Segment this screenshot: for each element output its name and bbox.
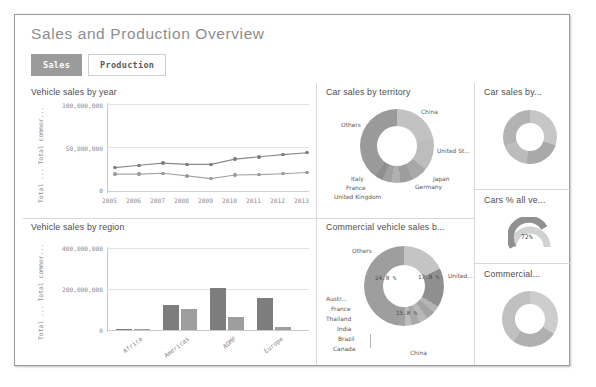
data-point <box>185 174 188 177</box>
slice-label-others: Others <box>352 248 372 254</box>
slice-pct-united-states: 17.8 % <box>418 274 439 280</box>
slice-label-france: France <box>331 306 351 312</box>
panel-commercial-vehicle-sales[interactable]: Commercial vehicle sales b... 17.8 % 15.… <box>320 222 474 365</box>
row-divider-right-2 <box>474 263 571 264</box>
panel-car-sales-by-small[interactable]: Car sales by... <box>478 85 571 189</box>
tab-bar: Sales Production <box>31 54 166 76</box>
panel-title-car-sales-by-territory: Car sales by territory <box>326 87 410 97</box>
y-tick-line-1: 50,000,000 <box>41 145 103 152</box>
slice-label-china: China <box>421 109 438 115</box>
tab-production[interactable]: Production <box>88 54 166 76</box>
x-tick-line: 2009 <box>198 197 213 204</box>
slice-label-italy: Italy <box>351 176 364 182</box>
x-tick-line: 2006 <box>126 197 141 204</box>
slice-pct-others: 24.8 % <box>375 275 396 281</box>
gauge-cars-pct: 72% <box>508 217 552 249</box>
x-tick-bar: AOMF <box>206 335 237 361</box>
data-point <box>257 155 260 158</box>
gridline-bar-top <box>107 248 309 249</box>
page-title: Sales and Production Overview <box>31 25 265 43</box>
data-point <box>137 172 140 175</box>
x-tick-bar: Europe <box>253 335 284 361</box>
y-tick-line-0: 0 <box>41 187 103 194</box>
data-point <box>113 166 116 169</box>
panel-title-commercial-small: Commercial... <box>484 269 540 279</box>
donut-hole <box>383 265 425 307</box>
dashboard-frame: Sales and Production Overview Sales Prod… <box>14 14 570 366</box>
donut-car-sales-by-small <box>503 110 557 164</box>
data-point <box>161 161 164 164</box>
bar-aomf-cars <box>210 288 226 330</box>
slice-label-brazil: Brazil <box>338 336 354 342</box>
y-tick-bar-2: 400,000,000 <box>41 245 103 252</box>
slice-label-germany: Germany <box>415 184 442 190</box>
slice-label-others: Others <box>341 122 361 128</box>
bar-americas-commercial <box>181 309 197 330</box>
data-point <box>233 157 236 160</box>
x-tick-bar: Americas <box>159 335 190 361</box>
y-tick-bar-0: 0 <box>41 327 103 334</box>
x-tick-line: 2010 <box>222 197 237 204</box>
slice-label-united-states: United St... <box>437 148 470 154</box>
gridline-bar-mid <box>107 289 309 290</box>
panel-cars-pct-all-vehicles[interactable]: Cars % all ve... 72% <box>478 193 571 263</box>
bar-europe-cars <box>257 298 273 330</box>
bar-africa-commercial <box>134 329 150 330</box>
x-tick-line: 2011 <box>246 197 261 204</box>
panel-car-sales-by-territory[interactable]: Car sales by territory China United St..… <box>320 85 474 217</box>
column-divider-1 <box>316 83 317 365</box>
panel-title-commercial-vehicle-sales: Commercial vehicle sales b... <box>326 222 445 232</box>
bar-africa-cars <box>116 329 132 330</box>
panel-title-vehicle-sales-by-region: Vehicle sales by region <box>31 222 124 232</box>
donut-hole <box>377 126 417 166</box>
gauge-value-label: 72% <box>521 233 533 241</box>
slice-label-united-kingdom: United Kingdom <box>334 194 381 200</box>
data-point <box>161 172 164 175</box>
data-point <box>137 164 140 167</box>
column-divider-2 <box>474 83 475 365</box>
donut-hole <box>516 123 544 151</box>
donut-hole <box>515 304 545 334</box>
data-point <box>209 163 212 166</box>
data-point <box>113 172 116 175</box>
x-tick-line: 2005 <box>102 197 117 204</box>
slice-label-united-states: United... <box>448 273 473 279</box>
data-point <box>209 177 212 180</box>
data-point <box>257 173 260 176</box>
x-tick-line: 2012 <box>270 197 285 204</box>
slice-label-india: India <box>337 326 351 332</box>
tab-sales[interactable]: Sales <box>31 54 82 76</box>
panel-title-cars-pct-all-vehicles: Cars % all ve... <box>484 195 546 205</box>
x-tick-bar: Africa <box>112 335 143 361</box>
slice-label-canada: Canada <box>333 346 355 352</box>
slice-label-china: China <box>410 350 427 356</box>
panel-commercial-small[interactable]: Commercial... <box>478 267 571 365</box>
slice-label-japan: Japan <box>433 176 449 182</box>
y-tick-line-2: 100,000,000 <box>41 102 103 109</box>
leader-line <box>370 334 371 348</box>
donut-car-sales-by-territory <box>360 109 434 183</box>
data-point <box>233 173 236 176</box>
panel-vehicle-sales-by-year[interactable]: Vehicle sales by year Total ... Total co… <box>23 85 316 217</box>
panel-vehicle-sales-by-region[interactable]: Vehicle sales by region Total ... Total … <box>23 222 316 365</box>
row-divider-mid <box>316 218 474 219</box>
slice-label-thailand: Thailand <box>326 316 351 322</box>
x-tick-line: 2013 <box>294 197 309 204</box>
panel-title-car-sales-by-small: Car sales by... <box>484 87 542 97</box>
y-tick-bar-1: 200,000,000 <box>41 286 103 293</box>
bar-aomf-commercial <box>228 317 244 330</box>
data-point <box>305 171 308 174</box>
panel-title-vehicle-sales-by-year: Vehicle sales by year <box>31 87 117 97</box>
bar-europe-commercial <box>275 327 291 330</box>
line-series-svg <box>107 103 311 195</box>
bar-americas-cars <box>163 305 179 330</box>
slice-pct-china: 15.8 % <box>396 310 417 316</box>
slice-label-france: France <box>346 185 366 191</box>
data-point <box>185 163 188 166</box>
row-divider-right-1 <box>474 189 571 190</box>
row-divider-left <box>23 218 316 219</box>
data-point <box>281 153 284 156</box>
donut-commercial-small <box>502 291 558 347</box>
x-tick-line: 2007 <box>150 197 165 204</box>
x-tick-line: 2008 <box>174 197 189 204</box>
